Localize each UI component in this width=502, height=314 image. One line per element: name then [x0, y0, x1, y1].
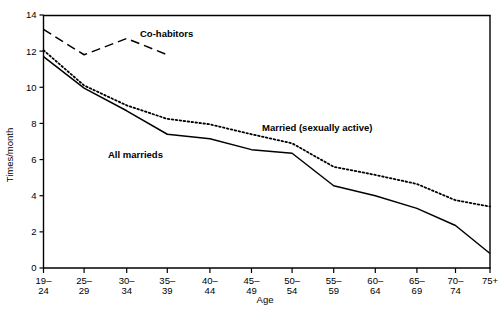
series-label: Co-habitors [140, 28, 193, 39]
x-tick-label-second-line: 49 [246, 285, 257, 296]
y-tick-label: 0 [31, 262, 36, 273]
plot-frame [43, 15, 491, 269]
x-tick-label-second-line: 29 [79, 285, 90, 296]
series-label: Married (sexually active) [262, 122, 372, 133]
chart-figure: 02468101214 19–2425–2930–3435–3940–4445–… [0, 0, 502, 314]
x-tick-label-second-line: 59 [328, 285, 339, 296]
y-tick-label: 14 [26, 9, 37, 20]
series-annotations: Co-habitorsMarried (sexually active)All … [108, 28, 372, 160]
y-tick-label: 2 [31, 226, 36, 237]
x-tick-label-second-line: 69 [412, 285, 423, 296]
y-axis-tick-labels: 02468101214 [26, 9, 37, 273]
y-tick-label: 12 [26, 46, 37, 57]
x-tick-label-second-line: 39 [162, 285, 173, 296]
y-axis-title: Times/month [4, 128, 15, 183]
x-tick-label: 75+ [482, 275, 499, 286]
series-label: All marrieds [108, 149, 163, 160]
series-lines [44, 29, 491, 253]
x-axis-title: Age [257, 294, 274, 305]
x-axis-ticks [44, 268, 491, 273]
y-tick-label: 6 [31, 154, 36, 165]
line-chart: 02468101214 19–2425–2930–3435–3940–4445–… [0, 0, 502, 314]
y-tick-label: 10 [26, 82, 37, 93]
x-tick-label-second-line: 54 [287, 285, 298, 296]
x-tick-label-second-line: 34 [121, 285, 132, 296]
x-tick-label-second-line: 74 [450, 285, 461, 296]
x-tick-label-second-line: 24 [38, 285, 49, 296]
y-tick-label: 8 [31, 118, 36, 129]
x-tick-label-second-line: 44 [205, 285, 216, 296]
y-tick-label: 4 [31, 190, 36, 201]
x-tick-label-second-line: 64 [370, 285, 381, 296]
x-axis-tick-labels: 19–2425–2930–3435–3940–4445–4950–5455–59… [36, 275, 499, 296]
